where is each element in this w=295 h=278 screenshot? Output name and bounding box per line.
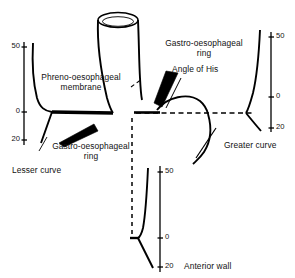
- anterior-wall-lower-trace: [138, 238, 153, 268]
- phreno-oesophageal-membrane-label-line1: Phreno-oesophageal: [41, 72, 121, 82]
- greater-curve-tick-label-50: 50: [276, 32, 284, 40]
- greater-curve-tick-label-0: 0: [276, 92, 280, 100]
- lesser-curve-junction-plane: [52, 112, 113, 113]
- gastro-oesophageal-ring-lower-label: Gastro-oesophageal ring: [41, 141, 141, 161]
- anterior-wall-label: Anterior wall: [184, 261, 231, 271]
- greater-curve-leader: [196, 128, 216, 158]
- lesser-curve-label: Lesser curve: [12, 165, 61, 175]
- anterior-wall-trace: [138, 168, 148, 238]
- lesser-curve-tick-label-50: 50: [2, 42, 20, 50]
- oesophagus-lumen-inner: [103, 17, 134, 27]
- greater-curve-lower-trace: [246, 113, 261, 131]
- oesophagus-lumen-rim: [98, 13, 138, 28]
- anterior-wall-tick-label-0: 0: [165, 233, 169, 241]
- anatomical-diagram-figure: Phreno-oesophageal membrane Gastro-oesop…: [0, 0, 295, 278]
- gastro-oesophageal-ring-upper-label-line1: Gastro-oesophageal: [165, 38, 243, 48]
- oesophagus-wall-right: [138, 20, 142, 100]
- gastro-oesophageal-ring-lower-label-line2: ring: [84, 151, 98, 161]
- greater-curve-body-trace: [193, 114, 210, 164]
- angle-of-his-label: Angle of His: [172, 64, 218, 74]
- greater-curve-tick-label-20: 20: [276, 123, 284, 131]
- phreno-oesophageal-membrane-label-line2: membrane: [61, 82, 102, 92]
- lesser-curve-tick-label-0: 0: [2, 107, 20, 115]
- anterior-wall-tick-label-50: 50: [165, 167, 173, 175]
- gastro-oesophageal-ring-lower-label-line1: Gastro-oesophageal: [52, 141, 130, 151]
- oesophagus-wall-left: [98, 20, 113, 113]
- gastro-oesophageal-ring-upper-label-line2: ring: [197, 48, 211, 58]
- gastro-oesophageal-ring-upper-label: Gastro-oesophageal ring: [152, 38, 256, 58]
- phreno-oesophageal-membrane-label: Phreno-oesophageal membrane: [31, 72, 131, 92]
- greater-curve-label: Greater curve: [224, 140, 277, 150]
- anterior-wall-tick-label-20: 20: [165, 262, 173, 270]
- lesser-curve-tick-label-20: 20: [2, 135, 20, 143]
